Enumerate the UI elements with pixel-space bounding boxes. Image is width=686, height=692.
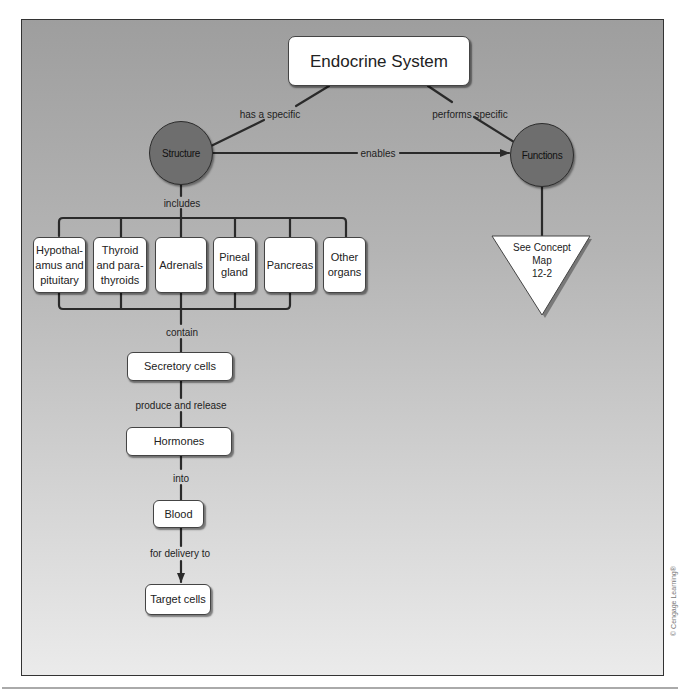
- chain-node-hormones: Hormones: [126, 427, 232, 456]
- blood-label: Blood: [164, 507, 192, 522]
- organ-node-pineal-gland: Pineal gland: [213, 237, 256, 293]
- title-text: Endocrine System: [310, 54, 448, 69]
- reference-concept-map-link[interactable]: See Concept Map 12-2: [491, 241, 593, 280]
- target-cells-label: Target cells: [150, 592, 206, 607]
- organ-line: Hypothal-: [35, 243, 83, 258]
- organ-node-other-organs: Other organs: [323, 237, 366, 293]
- organ-line: gland: [219, 265, 250, 280]
- organ-line: Adrenals: [159, 258, 202, 273]
- organ-line: pituitary: [35, 273, 83, 288]
- organ-line: Pineal: [219, 250, 250, 265]
- link-label-performs-specific: performs specific: [430, 109, 510, 120]
- link-label-has-specific: has a specific: [238, 109, 303, 120]
- reference-line: See Concept: [491, 241, 593, 254]
- organ-line: and para-: [96, 258, 143, 273]
- link-label-into: into: [171, 473, 191, 484]
- title-node-endocrine-system: Endocrine System: [288, 36, 470, 86]
- bottom-divider: [2, 687, 678, 689]
- organ-node-adrenals: Adrenals: [155, 237, 207, 293]
- organ-line: Thyroid: [96, 243, 143, 258]
- chain-node-secretory-cells: Secretory cells: [127, 352, 233, 381]
- secretory-cells-label: Secretory cells: [144, 359, 216, 374]
- organ-line: Other: [328, 250, 362, 265]
- organ-line: organs: [328, 265, 362, 280]
- chain-node-target-cells: Target cells: [145, 584, 211, 615]
- link-label-contain: contain: [164, 327, 200, 338]
- organ-node-pancreas: Pancreas: [264, 237, 316, 293]
- concept-functions-label: Functions: [522, 150, 563, 161]
- concept-circle-structure: Structure: [149, 121, 213, 185]
- organ-line: amus and: [35, 258, 83, 273]
- organ-node-thyroid-parathyroids: Thyroid and para- thyroids: [93, 237, 147, 293]
- reference-line: 12-2: [491, 267, 593, 280]
- organ-node-hypothalamus-pituitary: Hypothal- amus and pituitary: [33, 237, 86, 293]
- copyright-notice: © Cengage Learning®: [670, 566, 677, 636]
- chain-node-blood: Blood: [153, 500, 204, 528]
- concept-structure-label: Structure: [162, 148, 200, 159]
- connector-lines: [0, 0, 686, 692]
- organ-line: Pancreas: [267, 258, 313, 273]
- concept-circle-functions: Functions: [510, 123, 574, 187]
- hormones-label: Hormones: [154, 434, 205, 449]
- organ-line: thyroids: [96, 273, 143, 288]
- reference-line: Map: [491, 254, 593, 267]
- link-label-for-delivery-to: for delivery to: [148, 548, 212, 559]
- link-label-produce-release: produce and release: [133, 400, 228, 411]
- link-label-enables: enables: [358, 148, 397, 159]
- link-label-includes: includes: [162, 198, 203, 209]
